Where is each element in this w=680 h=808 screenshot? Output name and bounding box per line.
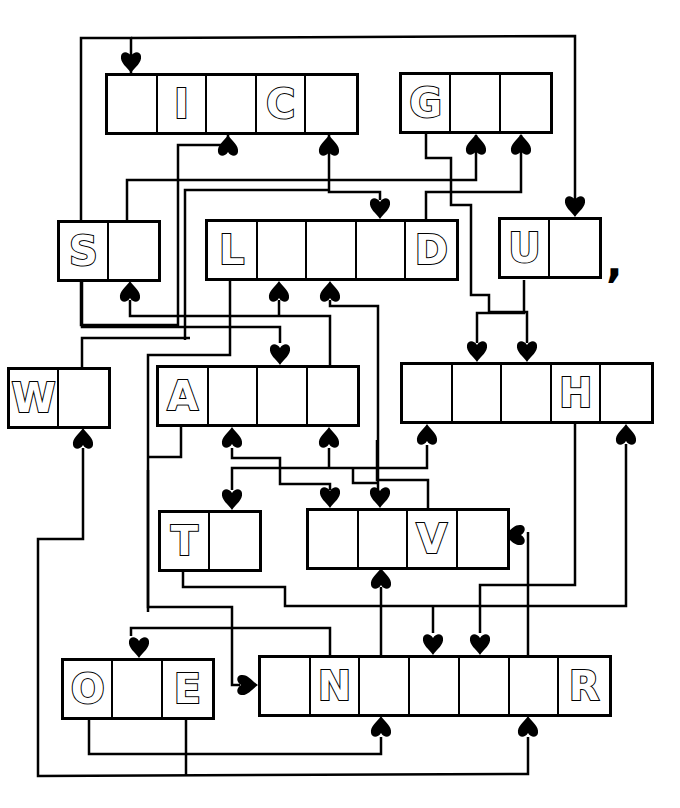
- word-box: V: [306, 508, 510, 570]
- word-box: A: [156, 365, 360, 427]
- word-box: H: [400, 362, 654, 424]
- cell-letter: N: [318, 666, 351, 706]
- letter-cell: I: [158, 76, 208, 132]
- cell-letter: O: [71, 669, 105, 709]
- blank-letter-cell[interactable]: [308, 368, 357, 424]
- cell-letter: E: [174, 669, 201, 709]
- letter-cell: O: [64, 661, 113, 717]
- letter-cell: H: [552, 365, 602, 421]
- comma-mark: ,: [606, 240, 623, 284]
- blank-letter-cell[interactable]: [109, 223, 158, 279]
- blank-letter-cell[interactable]: [207, 76, 257, 132]
- blank-letter-cell[interactable]: [307, 222, 357, 278]
- cell-letter: G: [409, 83, 442, 123]
- blank-letter-cell[interactable]: [306, 76, 356, 132]
- cell-letter: D: [415, 230, 448, 270]
- cell-letter: R: [569, 666, 600, 706]
- blank-letter-cell[interactable]: [502, 365, 552, 421]
- letter-cell: T: [161, 513, 210, 569]
- blank-letter-cell[interactable]: [550, 220, 599, 276]
- blank-letter-cell[interactable]: [261, 658, 311, 714]
- word-box: S: [57, 220, 161, 282]
- blank-letter-cell[interactable]: [359, 511, 409, 567]
- letter-cell: W: [10, 370, 59, 426]
- blank-letter-cell[interactable]: [357, 222, 407, 278]
- cell-letter: C: [266, 84, 295, 124]
- blank-letter-cell[interactable]: [460, 658, 510, 714]
- blank-letter-cell[interactable]: [451, 75, 500, 131]
- letter-cell: U: [501, 220, 550, 276]
- blank-letter-cell[interactable]: [309, 511, 359, 567]
- letter-maze-puzzle: ICGSLDUWAHTVOENR ,: [0, 0, 680, 808]
- blank-letter-cell[interactable]: [113, 661, 162, 717]
- cell-letter: A: [167, 376, 198, 416]
- blank-letter-cell[interactable]: [501, 75, 550, 131]
- letter-cell: N: [311, 658, 361, 714]
- blank-letter-cell[interactable]: [601, 365, 651, 421]
- cell-letter: V: [416, 519, 447, 559]
- cell-letter: U: [508, 228, 540, 268]
- letter-cell: A: [159, 368, 209, 424]
- word-box: W: [7, 367, 111, 429]
- word-box: U: [498, 217, 602, 279]
- cell-letter: S: [69, 231, 98, 271]
- blank-letter-cell[interactable]: [410, 658, 460, 714]
- blank-letter-cell[interactable]: [510, 658, 560, 714]
- letter-cell: G: [402, 75, 451, 131]
- blank-letter-cell[interactable]: [258, 222, 308, 278]
- word-box: OE: [61, 658, 215, 720]
- letter-cell: E: [163, 661, 212, 717]
- blank-letter-cell[interactable]: [258, 368, 308, 424]
- letter-cell: C: [257, 76, 307, 132]
- cell-letter: I: [174, 84, 189, 124]
- cell-letter: T: [171, 521, 198, 561]
- cell-letter: L: [219, 230, 245, 270]
- letter-cell: L: [208, 222, 258, 278]
- blank-letter-cell[interactable]: [108, 76, 158, 132]
- blank-letter-cell[interactable]: [453, 365, 503, 421]
- word-box: IC: [105, 73, 359, 135]
- letter-cell: V: [408, 511, 458, 567]
- cell-letter: W: [11, 378, 55, 418]
- blank-letter-cell[interactable]: [210, 513, 259, 569]
- letter-cell: R: [559, 658, 609, 714]
- cell-letter: H: [559, 373, 592, 413]
- blank-letter-cell[interactable]: [59, 370, 108, 426]
- blank-letter-cell[interactable]: [360, 658, 410, 714]
- word-box: G: [399, 72, 553, 134]
- word-box: NR: [258, 655, 612, 717]
- blank-letter-cell[interactable]: [209, 368, 259, 424]
- word-box: T: [158, 510, 262, 572]
- letter-cell: S: [60, 223, 109, 279]
- blank-letter-cell[interactable]: [403, 365, 453, 421]
- word-box: LD: [205, 219, 459, 281]
- letter-cell: D: [406, 222, 456, 278]
- blank-letter-cell[interactable]: [458, 511, 507, 567]
